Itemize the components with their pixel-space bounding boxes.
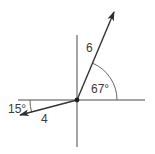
vector-b-angle-label: 15° — [8, 102, 26, 116]
vector-b-arrow — [20, 100, 77, 115]
vector-a-magnitude-label: 6 — [86, 41, 93, 55]
vector-a-angle-label: 67° — [91, 82, 109, 96]
vector-diagram: 6 67° 4 15° — [0, 0, 155, 154]
origin-point — [75, 98, 80, 103]
vector-b-magnitude-label: 4 — [41, 112, 48, 126]
angle-arc-15 — [30, 100, 32, 112]
